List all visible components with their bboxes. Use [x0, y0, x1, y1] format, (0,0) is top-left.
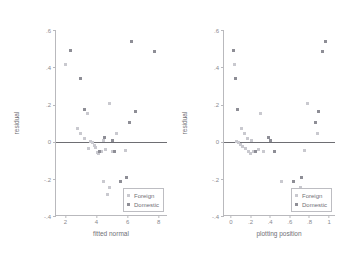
x-tick-mark	[309, 215, 310, 218]
y-tick-label: .2	[46, 102, 51, 108]
y-tick: 0	[216, 133, 224, 151]
data-point-foreign	[106, 193, 109, 196]
data-point-domestic	[314, 121, 317, 124]
legend-right: Foreign Domestic	[291, 188, 332, 212]
legend-marker-foreign-icon	[127, 194, 130, 197]
y-tick-mark	[221, 105, 224, 106]
x-tick: 0	[229, 215, 232, 225]
y-tick: .2	[214, 95, 224, 113]
data-point-foreign	[244, 147, 247, 150]
data-point-domestic	[232, 49, 235, 52]
data-point-foreign	[102, 180, 105, 183]
x-tick-label: 1	[327, 219, 330, 225]
x-tick-mark	[65, 215, 66, 218]
data-point-domestic	[69, 49, 72, 52]
panel-plotting-position: residual Foreign Domestic .6.4.20-.2-.40…	[182, 22, 342, 250]
data-point-foreign	[280, 180, 283, 183]
data-point-foreign	[87, 147, 90, 150]
y-tick-label: .6	[46, 28, 51, 34]
y-tick-mark	[221, 142, 224, 143]
data-point-foreign	[76, 127, 79, 130]
y-tick-label: -.4	[212, 214, 219, 220]
data-point-domestic	[128, 121, 131, 124]
y-tick: .6	[46, 21, 56, 39]
data-point-domestic	[273, 150, 276, 153]
y-tick: 0	[48, 133, 56, 151]
data-point-domestic	[236, 108, 239, 111]
x-tick: 6	[126, 215, 129, 225]
y-tick-mark	[221, 30, 224, 31]
data-point-domestic	[113, 150, 116, 153]
y-axis-title-left: residual	[13, 112, 20, 135]
y-tick: .6	[214, 21, 224, 39]
y-tick: .4	[214, 58, 224, 76]
legend-label-foreign: Foreign	[302, 193, 322, 199]
legend-marker-foreign-icon	[295, 194, 298, 197]
x-tick-mark	[270, 215, 271, 218]
x-tick-mark	[250, 215, 251, 218]
x-tick: .4	[268, 215, 273, 225]
data-point-foreign	[306, 102, 309, 105]
x-tick: 1	[327, 215, 330, 225]
data-point-domestic	[79, 77, 82, 80]
y-axis-title-right: residual	[181, 112, 188, 135]
y-tick: -.4	[212, 207, 224, 225]
data-point-domestic	[324, 40, 327, 43]
y-tick-label: .4	[214, 65, 219, 71]
x-tick-label: .6	[287, 219, 292, 225]
data-point-domestic	[292, 180, 295, 183]
y-tick-label: 0	[216, 139, 219, 145]
data-point-domestic	[300, 176, 303, 179]
y-tick-label: .2	[214, 102, 219, 108]
x-tick-label: .2	[248, 219, 253, 225]
data-point-foreign	[250, 139, 253, 142]
x-axis-title-left: fitted normal	[55, 230, 167, 237]
data-point-domestic	[98, 150, 101, 153]
data-point-domestic	[234, 77, 237, 80]
data-point-domestic	[254, 150, 257, 153]
data-point-foreign	[233, 63, 236, 66]
data-point-domestic	[321, 50, 324, 53]
x-tick-label: 8	[157, 219, 160, 225]
legend-item-foreign: Foreign	[295, 191, 327, 200]
x-tick-mark	[289, 215, 290, 218]
data-point-foreign	[262, 150, 265, 153]
x-tick: .8	[307, 215, 312, 225]
legend-marker-domestic-icon	[295, 203, 298, 206]
y-tick-mark	[53, 30, 56, 31]
y-tick-label: -.2	[44, 177, 51, 183]
data-point-foreign	[64, 63, 67, 66]
data-point-foreign	[316, 132, 319, 135]
x-tick: 2	[64, 215, 67, 225]
data-point-foreign	[94, 146, 97, 149]
data-point-foreign	[303, 149, 306, 152]
data-point-domestic	[130, 40, 133, 43]
y-tick-mark	[53, 67, 56, 68]
x-tick: .2	[248, 215, 253, 225]
data-point-foreign	[243, 132, 246, 135]
legend-item-domestic: Domestic	[127, 200, 159, 209]
y-tick-mark	[221, 216, 224, 217]
y-tick-label: .6	[214, 28, 219, 34]
data-point-domestic	[103, 136, 106, 139]
x-tick-label: .4	[268, 219, 273, 225]
y-tick-mark	[53, 105, 56, 106]
residual-diagnostic-figure: residual Foreign Domestic .6.4.20-.2-.42…	[0, 0, 356, 275]
legend-item-foreign: Foreign	[127, 191, 159, 200]
x-tick-mark	[329, 215, 330, 218]
y-tick: -.4	[44, 207, 56, 225]
y-tick-mark	[53, 142, 56, 143]
top-edge-artifact	[0, 0, 356, 12]
legend-label-foreign: Foreign	[134, 193, 154, 199]
legend-item-domestic: Domestic	[295, 200, 327, 209]
data-point-domestic	[111, 139, 114, 142]
plot-area-left: Foreign Domestic .6.4.20-.2-.42468	[55, 30, 167, 216]
x-tick-mark	[127, 215, 128, 218]
plot-area-right: Foreign Domestic .6.4.20-.2-.40.2.4.6.81	[223, 30, 335, 216]
panel-fitted-normal: residual Foreign Domestic .6.4.20-.2-.42…	[14, 22, 174, 250]
data-point-domestic	[134, 110, 137, 113]
x-tick: .6	[287, 215, 292, 225]
x-tick-label: .8	[307, 219, 312, 225]
x-tick-label: 2	[64, 219, 67, 225]
y-tick-label: 0	[48, 139, 51, 145]
